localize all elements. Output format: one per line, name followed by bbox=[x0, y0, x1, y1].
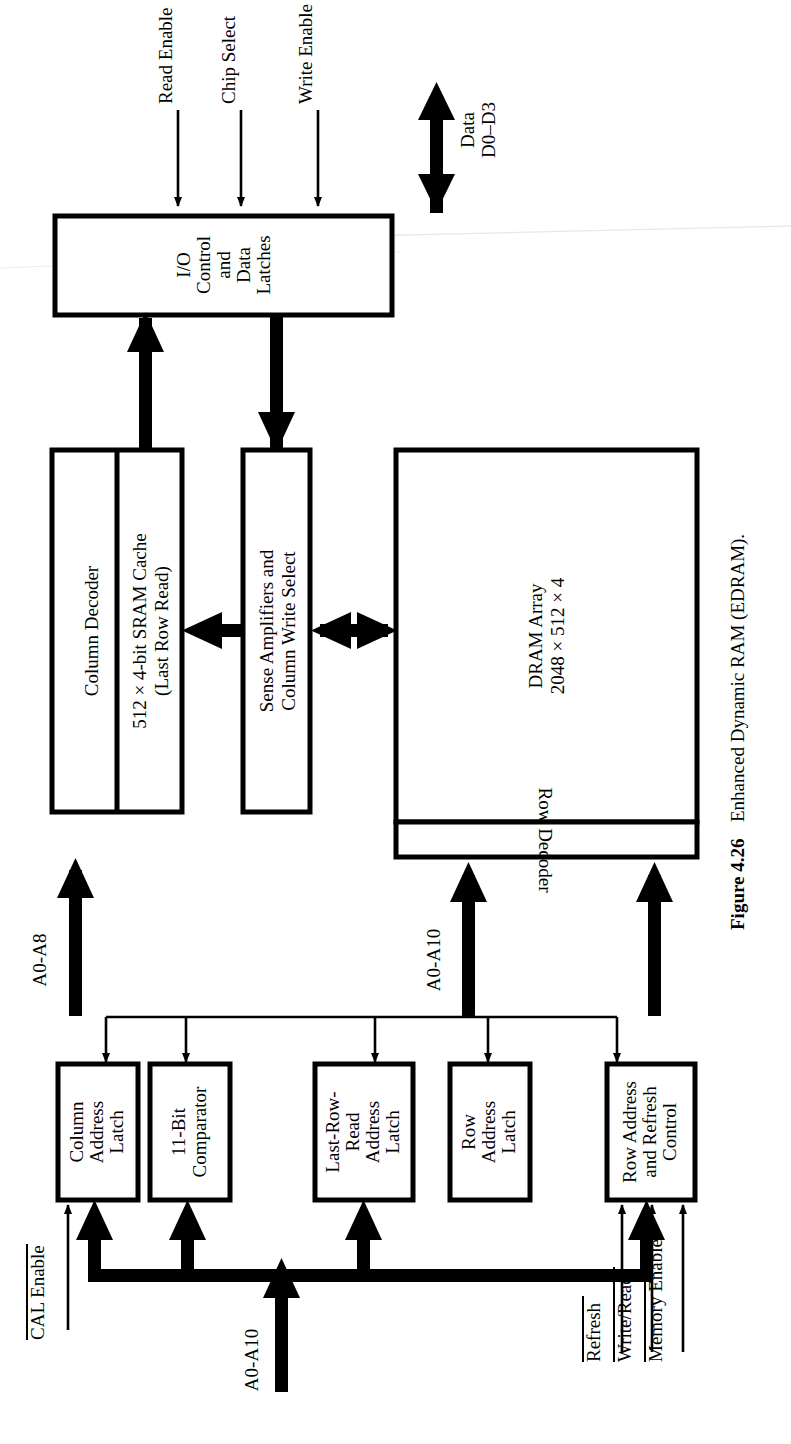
a0-a10-row-label: A0-A10 bbox=[423, 929, 444, 991]
row-address-latch-line2: Address bbox=[478, 1101, 499, 1163]
column-address-latch-line3: Latch bbox=[106, 1110, 127, 1154]
last-row-read-line2: Read bbox=[342, 1112, 363, 1152]
last-row-read-line4: Latch bbox=[382, 1110, 403, 1154]
a0-a10-row-label-group: A0-A10 bbox=[423, 929, 444, 991]
chip-select-label-group: Chip Select bbox=[218, 15, 239, 104]
sense-amplifiers-line2: Column Write Select bbox=[278, 551, 299, 711]
column-address-latch-line2: Address bbox=[86, 1101, 107, 1163]
io-control-line4: Data bbox=[233, 247, 254, 283]
write-enable-label: Write Enable bbox=[295, 4, 316, 104]
a0-a10-bottom-label: A0-A10 bbox=[241, 1329, 262, 1391]
sram-cache-line2: (Last Row Read) bbox=[151, 566, 173, 696]
io-control-line1: I/O bbox=[173, 252, 194, 277]
edram-block-diagram: Read Enable Chip Select Write Enable Dat… bbox=[0, 0, 791, 1444]
row-address-latch-line1: Row bbox=[458, 1114, 479, 1150]
data-bus-label-line2: D0–D3 bbox=[478, 102, 499, 158]
comparator-line1: 11-Bit bbox=[168, 1107, 189, 1156]
cal-enable-label: CAL Enable bbox=[27, 1245, 48, 1340]
read-enable-label-group: Read Enable bbox=[155, 7, 176, 104]
a0-a8-label: A0-A8 bbox=[29, 934, 50, 987]
last-row-read-line1: Last-Row- bbox=[322, 1091, 343, 1172]
io-control-line3: and bbox=[213, 251, 234, 279]
data-bus-label-line1: Data bbox=[457, 112, 478, 148]
refresh-control-line3: Control bbox=[659, 1103, 680, 1161]
figure-page: Read Enable Chip Select Write Enable Dat… bbox=[0, 0, 791, 1444]
figure-caption: Enhanced Dynamic RAM (EDRAM). bbox=[727, 534, 749, 822]
memory-enable-label: Memory Enable bbox=[645, 1239, 666, 1362]
dram-array-label-group: DRAM Array 2048 × 512 × 4 bbox=[525, 577, 568, 694]
column-address-latch-line1: Column bbox=[66, 1101, 87, 1163]
chip-select-label: Chip Select bbox=[218, 15, 239, 104]
dram-array-line2: 2048 × 512 × 4 bbox=[547, 577, 568, 694]
io-control-line5: Latches bbox=[253, 235, 274, 294]
cal-enable-label-group: CAL Enable bbox=[27, 1244, 48, 1340]
row-decoder-label: Row Decoder bbox=[535, 788, 556, 894]
comparator-line2: Comparator bbox=[189, 1086, 210, 1177]
memory-enable-label-group: Memory Enable bbox=[645, 1233, 666, 1362]
figure-caption-group: Figure 4.26 Enhanced Dynamic RAM (EDRAM)… bbox=[727, 534, 749, 930]
sram-cache-line1: 512 × 4-bit SRAM Cache bbox=[129, 533, 150, 728]
write-read-label-group: Write/Read bbox=[614, 1267, 635, 1362]
write-enable-label-group: Write Enable bbox=[295, 4, 316, 104]
refresh-label-group: Refresh bbox=[583, 1296, 604, 1362]
last-row-read-line3: Address bbox=[362, 1101, 383, 1163]
write-read-label: Write/Read bbox=[614, 1275, 635, 1362]
a0-a10-bottom-label-group: A0-A10 bbox=[241, 1329, 262, 1391]
a0-a8-label-group: A0-A8 bbox=[29, 934, 50, 987]
dram-array-line1: DRAM Array bbox=[525, 583, 546, 689]
read-enable-label: Read Enable bbox=[155, 7, 176, 104]
sense-amplifiers-line1: Sense Amplifiers and bbox=[256, 549, 277, 712]
column-decoder-label-group: Column Decoder bbox=[81, 565, 102, 696]
row-decoder-label-group: Row Decoder bbox=[535, 788, 556, 894]
row-address-latch-line3: Latch bbox=[498, 1110, 519, 1154]
column-decoder-label: Column Decoder bbox=[81, 565, 102, 696]
figure-number: Figure 4.26 bbox=[727, 839, 748, 930]
sense-amplifiers-label-group: Sense Amplifiers and Column Write Select bbox=[256, 549, 299, 712]
io-control-line2: Control bbox=[193, 236, 214, 294]
refresh-control-line1: Row Address bbox=[619, 1081, 640, 1183]
refresh-control-line2: and Refresh bbox=[639, 1086, 660, 1178]
refresh-label: Refresh bbox=[583, 1302, 604, 1362]
